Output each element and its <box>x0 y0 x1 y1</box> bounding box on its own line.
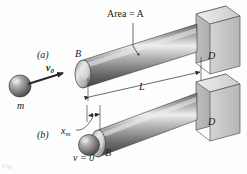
support-label-bottom: D <box>208 117 215 127</box>
impact-loading-figure: Area = A (a) (b) v0 m B B D D L xm v = 0… <box>0 0 247 174</box>
velocity-arrow <box>28 73 63 84</box>
part-label-b: (b) <box>37 130 49 140</box>
part-label-a: (a) <box>37 50 49 60</box>
length-dimension-label: L <box>139 82 145 92</box>
area-label: Area = A <box>107 9 144 19</box>
deflection-dimension-label: xm <box>61 126 70 137</box>
zero-velocity-label: v = 0 <box>73 153 94 163</box>
figure-caption: Fig. <box>2 163 13 170</box>
figure-canvas <box>0 0 247 174</box>
support-label-top: D <box>208 51 215 61</box>
impacting-mass <box>9 75 31 97</box>
wall-block-top <box>196 6 240 74</box>
rod-top <box>75 24 197 88</box>
initial-velocity-subscript: 0 <box>50 67 53 74</box>
dimension-deflection-xm <box>76 105 100 130</box>
mass-label: m <box>17 101 24 111</box>
rod-end-label-top: B <box>75 49 81 59</box>
deflection-subscript: m <box>65 130 70 137</box>
rod-end-label-bottom: B <box>105 148 111 158</box>
wall-block-bottom <box>196 74 240 141</box>
initial-velocity-label: v0 <box>46 63 54 74</box>
